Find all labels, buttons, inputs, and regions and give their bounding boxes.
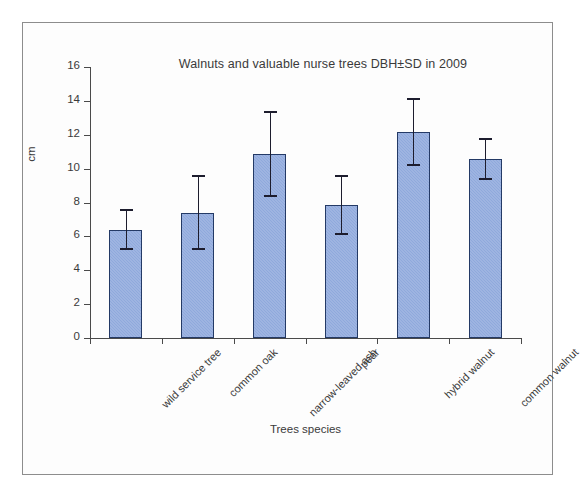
error-bar-cap-top: [264, 111, 277, 113]
y-tick-label: 6: [74, 228, 80, 240]
x-tick: [162, 338, 163, 344]
x-category-label: hybrid walnut: [442, 346, 496, 400]
error-bar-cap-bottom: [479, 178, 492, 180]
y-tick: 16: [84, 67, 90, 68]
y-tick-label: 14: [67, 93, 80, 105]
error-bar-cap-bottom: [264, 195, 277, 197]
error-bar-cap-top: [407, 98, 420, 100]
y-tick: 14: [84, 101, 90, 102]
x-tick: [306, 338, 307, 344]
y-tick-label: 16: [67, 59, 80, 71]
y-axis-title: cm: [25, 124, 37, 184]
y-tick: 6: [84, 236, 90, 237]
y-tick-label: 10: [67, 161, 80, 173]
error-bar-cap-top: [192, 175, 205, 177]
x-category-label: common walnut: [518, 346, 581, 409]
bar: [469, 159, 502, 338]
error-bar-cap-top: [120, 209, 133, 211]
error-bar-cap-top: [479, 138, 492, 140]
error-bar: [198, 175, 199, 250]
x-tick: [90, 338, 91, 344]
x-tick: [449, 338, 450, 344]
x-axis-title: Trees species: [90, 423, 521, 435]
error-bar: [270, 111, 271, 197]
error-bar-cap-bottom: [407, 164, 420, 166]
x-tick: [234, 338, 235, 344]
x-tick: [521, 338, 522, 344]
y-tick: 10: [84, 169, 90, 170]
error-bar: [485, 138, 486, 180]
plot-area: 0246810121416: [90, 67, 521, 338]
error-bar: [341, 175, 342, 234]
y-tick: 8: [84, 203, 90, 204]
y-tick-label: 0: [74, 330, 80, 342]
chart-frame: Walnuts and valuable nurse trees DBH±SD …: [22, 22, 553, 475]
error-bar-cap-bottom: [335, 233, 348, 235]
y-tick-label: 8: [74, 195, 80, 207]
y-tick-label: 2: [74, 296, 80, 308]
error-bar-cap-top: [335, 175, 348, 177]
error-bar-cap-bottom: [120, 248, 133, 250]
y-tick: 4: [84, 270, 90, 271]
y-tick: 12: [84, 135, 90, 136]
error-bar-cap-bottom: [192, 248, 205, 250]
x-category-label: common oak: [226, 346, 279, 399]
error-bar: [413, 98, 414, 166]
error-bar: [126, 209, 127, 250]
y-tick-label: 12: [67, 127, 80, 139]
x-category-label: wild service tree: [159, 346, 223, 410]
y-axis-line: [90, 67, 91, 338]
y-tick-label: 4: [74, 262, 80, 274]
x-tick: [377, 338, 378, 344]
y-tick: 2: [84, 304, 90, 305]
x-category-label: pear: [358, 346, 382, 370]
